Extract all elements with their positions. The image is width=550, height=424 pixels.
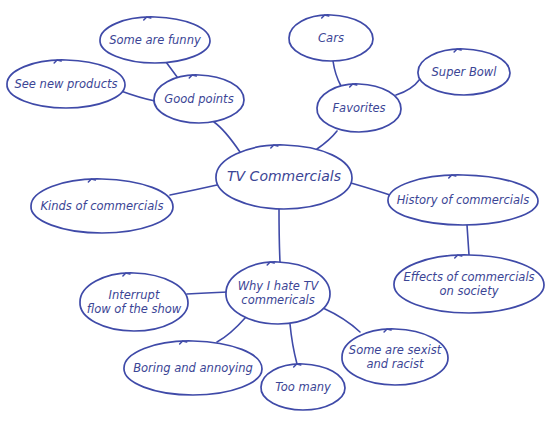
edge-hate-toomany [290,324,297,364]
edge-hate-boring [217,317,246,342]
node-label: flow of the show [87,302,182,316]
edge-center-fav [317,131,337,149]
node-effects: Effects of commercialson society [394,255,544,313]
node-label: Boring and annoying [133,361,253,375]
nodes-layer: TV CommercialsGood pointsSome are funnyS… [7,15,544,410]
node-label: Some are funny [109,33,201,47]
node-boring: Boring and annoying [124,341,262,395]
node-label: Interrupt [109,288,160,302]
node-label: commericals [241,293,314,307]
node-label: Good points [164,92,233,106]
node-label: Some are sexist [349,343,442,357]
edge-center-history [351,183,390,195]
node-label: Why I hate TV [238,279,320,293]
node-newprod: See new products [7,60,125,108]
node-label: Cars [318,31,344,45]
node-sexist: Some are sexistand racist [342,329,448,385]
node-label: Super Bowl [432,65,498,79]
node-label: and racist [366,357,424,371]
edge-fav-cars [333,61,341,86]
node-good: Good points [154,75,244,123]
node-label: Effects of commercials [403,270,534,284]
edge-fav-super [396,79,420,95]
node-hate: Why I hate TVcommericals [226,262,330,324]
node-funny: Some are funny [100,17,210,63]
node-label: Kinds of commercials [40,199,163,213]
node-kinds: Kinds of commercials [31,179,173,233]
node-label: Favorites [332,101,385,115]
edge-center-hate [279,209,280,262]
node-cars: Cars [289,15,373,61]
node-history: History of commercials [388,175,538,225]
edge-hate-interrupt [187,292,228,294]
node-toomany: Too many [261,364,345,410]
mind-map: TV CommercialsGood pointsSome are funnyS… [0,0,550,424]
edge-center-good [214,122,240,152]
node-center: TV Commercials [216,145,352,209]
node-label: on society [440,284,499,298]
node-interrupt: Interruptflow of the show [80,273,188,331]
node-label: TV Commercials [227,168,341,184]
edge-hate-sexist [323,308,360,332]
node-super: Super Bowl [418,49,510,95]
edge-history-effects [467,225,469,255]
node-label: Too many [275,380,331,394]
node-label: See new products [14,77,117,91]
node-label: History of commercials [397,193,530,207]
edge-good-newprod [121,91,155,101]
node-fav: Favorites [317,84,401,132]
edge-center-kinds [170,185,217,195]
